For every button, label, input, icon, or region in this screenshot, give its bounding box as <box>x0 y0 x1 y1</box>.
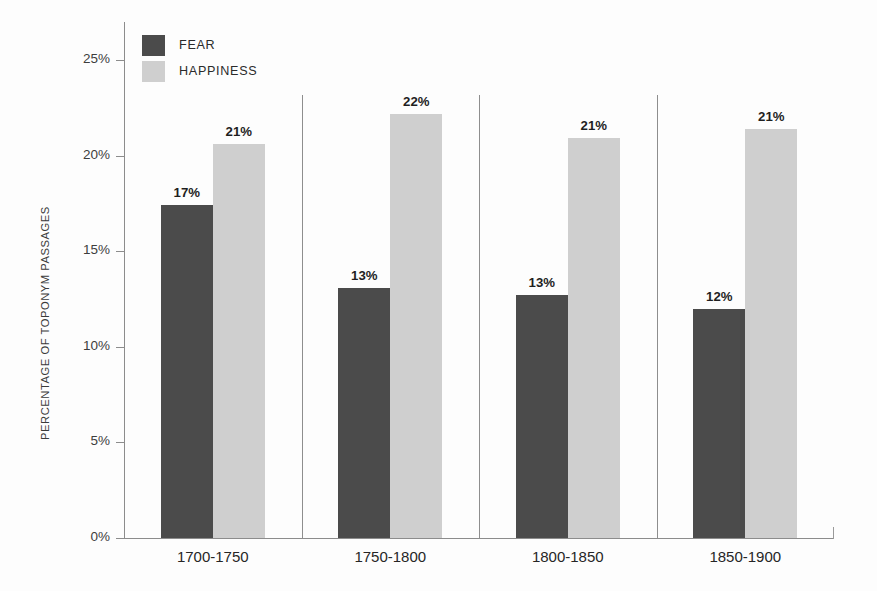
bar-value-label: 21% <box>205 124 273 139</box>
y-axis-tick <box>116 538 124 539</box>
bar-happiness-1750-1800[interactable] <box>390 114 442 538</box>
chart-legend: FEARHAPPINESS <box>142 32 257 84</box>
y-axis-tick <box>116 60 124 61</box>
y-axis-tick-label: 15% <box>58 242 110 257</box>
bar-fear-1700-1750[interactable] <box>161 205 213 538</box>
bar-fear-1750-1800[interactable] <box>338 288 390 538</box>
legend-swatch-icon <box>142 61 165 82</box>
y-axis-tick <box>116 442 124 443</box>
y-axis-tick <box>116 347 124 348</box>
bar-value-label: 13% <box>330 268 398 283</box>
group-separator-line <box>479 95 480 538</box>
bar-value-label: 13% <box>508 275 576 290</box>
legend-swatch-icon <box>142 35 165 56</box>
bar-fear-1800-1850[interactable] <box>516 295 568 538</box>
y-axis-tick-label: 10% <box>58 338 110 353</box>
bar-happiness-1800-1850[interactable] <box>568 138 620 538</box>
y-axis-tick-label: 25% <box>58 51 110 66</box>
group-separator-line <box>302 95 303 538</box>
y-axis-title: PERCENTAGE OF TOPONYM PASSAGES <box>34 120 56 440</box>
bar-fear-1850-1900[interactable] <box>693 309 745 538</box>
x-axis-label-1750-1800: 1750-1800 <box>302 548 480 565</box>
legend-item-happiness[interactable]: HAPPINESS <box>142 58 257 84</box>
y-axis-tick-label: 0% <box>58 529 110 544</box>
plot-area: 17%21%13%22%13%21%12%21% <box>124 22 834 538</box>
bar-value-label: 12% <box>685 289 753 304</box>
x-axis-label-1700-1750: 1700-1750 <box>124 548 302 565</box>
y-axis-tick-label: 20% <box>58 147 110 162</box>
bar-value-label: 17% <box>153 185 221 200</box>
y-axis-tick <box>116 156 124 157</box>
x-axis-line <box>124 538 834 539</box>
group-separator-line <box>657 95 658 538</box>
bar-happiness-1850-1900[interactable] <box>745 129 797 538</box>
bar-chart: PERCENTAGE OF TOPONYM PASSAGES 0%5%10%15… <box>0 0 877 591</box>
bar-value-label: 22% <box>382 94 450 109</box>
bar-value-label: 21% <box>560 118 628 133</box>
y-axis-tick <box>116 251 124 252</box>
legend-item-fear[interactable]: FEAR <box>142 32 257 58</box>
x-axis-label-1800-1850: 1800-1850 <box>479 548 657 565</box>
y-axis-tick-label: 5% <box>58 433 110 448</box>
bar-value-label: 21% <box>737 109 805 124</box>
bar-happiness-1700-1750[interactable] <box>213 144 265 538</box>
x-axis-label-1850-1900: 1850-1900 <box>657 548 835 565</box>
legend-item-label: FEAR <box>179 38 215 52</box>
legend-item-label: HAPPINESS <box>179 64 257 78</box>
